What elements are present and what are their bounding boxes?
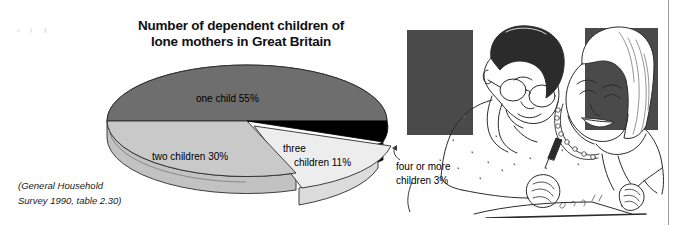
illustration [396,18,666,218]
woman-hand [619,184,644,211]
chart-title-line1: Number of dependent children of [138,18,344,33]
woman-collar [596,134,646,155]
man-mouth [518,114,541,118]
illustration-svg [396,18,666,218]
pie-label-two-children: two children 30% [152,150,228,163]
chart-title-line2: lone mothers in Great Britain [110,34,372,50]
pen [548,138,562,160]
background-panel-left [407,30,473,135]
man-chin [506,110,523,128]
man-collar [487,96,508,152]
pie-label-three-line2: children 11% [283,156,353,170]
man-collar-fold [514,126,537,142]
page-border-rule [668,0,669,225]
scan-speck [17,29,20,32]
man-arm [462,190,528,198]
woman-sleeve-cuff [644,180,657,193]
woman-blouse-fold2 [602,154,614,190]
table-edge [486,214,646,218]
source-note-line2: Survey 1990, table 2.30) [18,193,153,208]
pie-label-three-line1: three [283,143,306,154]
source-note: (General Household Survey 1990, table 2.… [18,178,153,208]
scan-speck [44,28,47,33]
pie-label-three-children: three children 11% [283,142,353,169]
figure-root: Number of dependent children of lone mot… [0,0,690,225]
woman-shoulder [646,130,664,194]
pen-tip [545,158,549,168]
chart-title: Number of dependent children of lone mot… [110,18,372,50]
pie-label-one-child: one child 55% [196,92,259,105]
glasses-lens-right [529,85,555,107]
man-torso [441,178,462,190]
source-note-line1: (General Household [18,178,153,193]
glasses-lens-left [500,79,526,101]
paper-writing [560,195,602,208]
scan-speck [30,28,32,33]
man-hair [491,26,565,98]
